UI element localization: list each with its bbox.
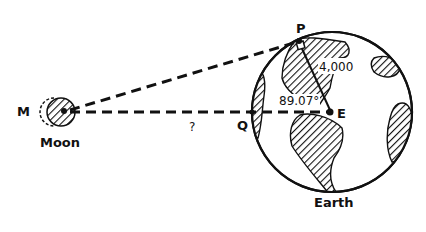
point-q (250, 110, 255, 115)
label-q: Q (237, 118, 248, 133)
label-unknown-distance: ? (189, 120, 195, 134)
point-e (327, 109, 334, 116)
label-earth: Earth (314, 195, 354, 210)
moon-distance-diagram: M P Q E Moon Earth ? 4,000 89.07° (0, 0, 426, 232)
europe (371, 56, 400, 76)
label-e: E (337, 106, 346, 121)
label-m: M (17, 104, 30, 119)
moon (40, 98, 75, 126)
label-moon: Moon (40, 135, 80, 150)
label-angle: 89.07° (279, 94, 319, 108)
label-p: P (296, 21, 306, 36)
point-m-marker (61, 108, 67, 114)
label-radius: 4,000 (319, 60, 353, 74)
point-p (296, 38, 302, 44)
